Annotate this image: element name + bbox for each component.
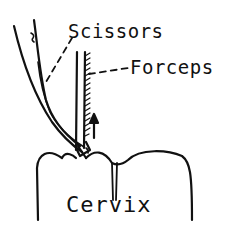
upward-arrow-icon: [90, 114, 98, 138]
forceps-icon: [76, 52, 90, 156]
scissors-leader-line: [46, 38, 72, 82]
forceps-leader-line: [89, 68, 128, 74]
cervix-label: Cervix: [66, 194, 151, 216]
forceps-label: Forceps: [130, 58, 214, 77]
scissors-label: Scissors: [68, 22, 164, 41]
